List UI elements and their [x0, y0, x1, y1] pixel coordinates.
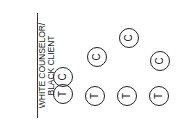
marker-letter: C: [124, 34, 134, 41]
marker-letter: T: [58, 91, 68, 97]
marker-therapist-3: T: [117, 86, 137, 106]
marker-letter: T: [154, 93, 164, 99]
marker-letter: C: [155, 57, 165, 64]
divider-line: [37, 13, 38, 118]
marker-counselor-2: C: [87, 47, 107, 67]
marker-therapist-1: T: [53, 84, 73, 104]
row-label-line-2: BLACK CLIENT: [47, 13, 56, 118]
marker-counselor-4: C: [150, 51, 170, 71]
row-label: WHITE COUNSELOR/ BLACK CLIENT: [38, 13, 56, 118]
marker-letter: T: [122, 93, 132, 99]
marker-counselor-3: C: [119, 28, 139, 48]
marker-letter: T: [90, 93, 100, 99]
marker-letter: C: [58, 73, 68, 80]
marker-letter: C: [92, 53, 102, 60]
marker-therapist-2: T: [85, 86, 105, 106]
marker-therapist-4: T: [149, 86, 169, 106]
